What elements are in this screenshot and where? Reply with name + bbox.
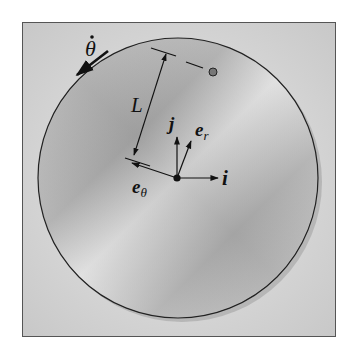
i-label: i bbox=[222, 166, 228, 190]
theta-dot-label: θ bbox=[85, 36, 96, 61]
particle bbox=[209, 68, 217, 76]
theta-dot-overdot bbox=[90, 35, 94, 39]
origin-point bbox=[173, 174, 180, 181]
length-label: L bbox=[130, 93, 143, 117]
rotating-disc-diagram: θ L j er eθ i bbox=[0, 0, 350, 355]
